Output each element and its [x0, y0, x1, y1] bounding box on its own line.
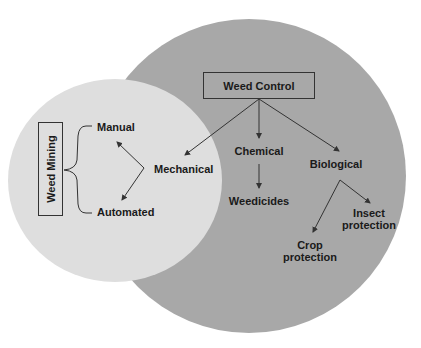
arrow-to-insect-protection [340, 180, 370, 203]
arrow-to-crop-protection [313, 180, 340, 232]
insect-protection-label: Insect protection [342, 207, 396, 231]
weed-mining-box: Weed Mining [38, 122, 63, 216]
crop-protection-line2: protection [283, 251, 337, 263]
brace [64, 126, 92, 213]
automated-label: Automated [97, 206, 154, 218]
crop-protection-line1: Crop [283, 239, 337, 251]
mechanical-label: Mechanical [154, 163, 213, 175]
weedicides-label: Weedicides [229, 195, 289, 207]
manual-label: Manual [97, 121, 135, 133]
weed-control-box: Weed Control [203, 72, 315, 99]
biological-label: Biological [310, 158, 363, 170]
arrow-to-biological [259, 99, 339, 151]
arrow-to-manual [117, 142, 144, 168]
weed-mining-title: Weed Mining [45, 135, 57, 203]
crop-protection-label: Crop protection [283, 239, 337, 263]
insect-protection-line2: protection [342, 219, 396, 231]
chemical-label: Chemical [235, 145, 284, 157]
insect-protection-line1: Insect [342, 207, 396, 219]
arrow-to-automated [122, 168, 144, 200]
weed-control-title: Weed Control [223, 80, 294, 92]
